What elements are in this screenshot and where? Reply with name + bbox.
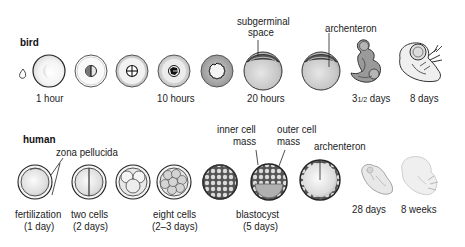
human-four-cells-icon	[116, 165, 150, 199]
bird-10-hours-label: 10 hours	[157, 92, 195, 104]
zona-pellucida-pointer	[51, 158, 63, 175]
bird-two-cell-icon	[75, 55, 107, 87]
human-28-days-embryo-icon	[362, 164, 393, 194]
two-cells-time-label: (2 days)	[73, 220, 108, 232]
human-eight-cells-icon	[157, 165, 191, 199]
bird-section-title: bird	[20, 36, 39, 48]
outer-cell-mass-label-line1: outer cell	[277, 123, 316, 135]
human-section-title: human	[23, 133, 55, 145]
human-gastrula-icon	[300, 160, 340, 200]
28-days-label: 28 days	[352, 203, 386, 215]
human-archenteron-label: archenteron	[314, 140, 366, 152]
inner-cell-mass-label-line2: mass	[233, 135, 256, 147]
eight-cells-time-label: (2–3 days)	[152, 220, 198, 232]
blastocyst-label: blastocyst	[236, 208, 279, 220]
human-blastocyst-icon	[251, 150, 287, 200]
bird-8-days-embryo-icon	[400, 43, 442, 82]
bird-1-hour-zygote-icon	[33, 55, 65, 87]
blastocyst-time-label: (5 days)	[243, 220, 278, 232]
bird-8-days-label: 8 days	[410, 92, 439, 104]
inner-cell-mass-label-line1: inner cell	[217, 123, 256, 135]
bird-four-cell-icon	[116, 55, 148, 87]
bird-10-hours-morula-icon	[158, 55, 190, 87]
bird-3-5-days-label: 31/2 days	[352, 92, 390, 106]
outer-cell-mass-pointer	[279, 150, 285, 166]
two-cells-label: two cells	[71, 208, 108, 220]
bird-blastoderm-icon	[201, 55, 233, 87]
three-half-days-fraction: 1/2	[357, 95, 367, 104]
eight-cells-label: eight cells	[153, 208, 196, 220]
human-two-cells-icon	[72, 165, 106, 199]
bird-1-hour-label: 1 hour	[36, 92, 63, 104]
bird-archenteron-label: archenteron	[325, 22, 377, 34]
human-fertilization-icon	[18, 158, 63, 199]
8-weeks-label: 8 weeks	[401, 203, 437, 215]
zona-pellucida-label: zona pellucida	[56, 146, 118, 158]
bird-20-hours-icon	[244, 40, 282, 90]
bird-gastrula-icon	[302, 33, 340, 90]
subgerminal-space-label-line2: space	[248, 26, 274, 38]
human-morula-icon	[203, 165, 237, 199]
bird-20-hours-label: 20 hours	[247, 92, 285, 104]
fertilization-label: fertilization	[15, 208, 61, 220]
bird-3-5-days-embryo-icon	[351, 40, 381, 82]
three-half-days-suffix: days	[367, 92, 390, 104]
human-8-weeks-fetus-icon	[402, 157, 438, 195]
inner-cell-mass-pointer	[256, 150, 258, 165]
bird-egg-cell-icon	[20, 69, 26, 78]
outer-cell-mass-label-line2: mass	[277, 135, 300, 147]
fertilization-time-label: (1 day)	[24, 220, 54, 232]
